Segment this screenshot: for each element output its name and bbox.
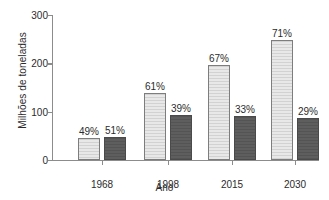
bar-serie-clara-1968: 49%	[78, 138, 100, 160]
x-axis-line	[48, 160, 319, 161]
y-axis-line	[52, 15, 53, 161]
bar-serie-escura-2030: 29%	[297, 118, 319, 160]
plot-area: 0100200300 49%51%61%39%67%33%71%29% 1968…	[52, 13, 320, 161]
bar-value-label: 71%	[272, 28, 292, 39]
x-tick-mark	[168, 160, 169, 165]
bar-serie-clara-1998: 61%	[144, 93, 166, 160]
y-tick-label: 0	[42, 155, 48, 166]
y-tick-label: 100	[31, 106, 48, 117]
bar-group: 49%51%	[78, 13, 126, 160]
y-tick-label: 300	[31, 10, 48, 21]
y-tick-mark	[48, 160, 53, 161]
bar-serie-clara-2015: 67%	[208, 65, 230, 160]
bar-serie-escura-1968: 51%	[104, 137, 126, 160]
bar-value-label: 67%	[209, 53, 229, 64]
x-tick-mark	[232, 160, 233, 165]
x-tick-mark	[295, 160, 296, 165]
bar-group: 67%33%	[208, 13, 256, 160]
bar-serie-escura-1998: 39%	[170, 115, 192, 160]
y-tick-mark	[48, 15, 53, 16]
bar-group: 71%29%	[271, 13, 319, 160]
bar-value-label: 49%	[79, 126, 99, 137]
bar-value-label: 51%	[105, 125, 125, 136]
bar-value-label: 29%	[298, 106, 318, 117]
x-tick-mark	[102, 160, 103, 165]
y-axis-title: Milhões de toneladas	[17, 6, 28, 156]
bar-group: 61%39%	[144, 13, 192, 160]
bar-value-label: 39%	[171, 103, 191, 114]
bar-value-label: 33%	[235, 104, 255, 115]
y-tick-mark	[48, 112, 53, 113]
x-axis-title: Ano	[0, 182, 329, 193]
y-tick-label: 200	[31, 58, 48, 69]
bar-chart: Milhões de toneladas 0100200300 49%51%61…	[0, 0, 329, 200]
bar-value-label: 61%	[145, 81, 165, 92]
bar-serie-escura-2015: 33%	[234, 116, 256, 160]
bar-serie-clara-2030: 71%	[271, 40, 293, 160]
y-tick-mark	[48, 63, 53, 64]
